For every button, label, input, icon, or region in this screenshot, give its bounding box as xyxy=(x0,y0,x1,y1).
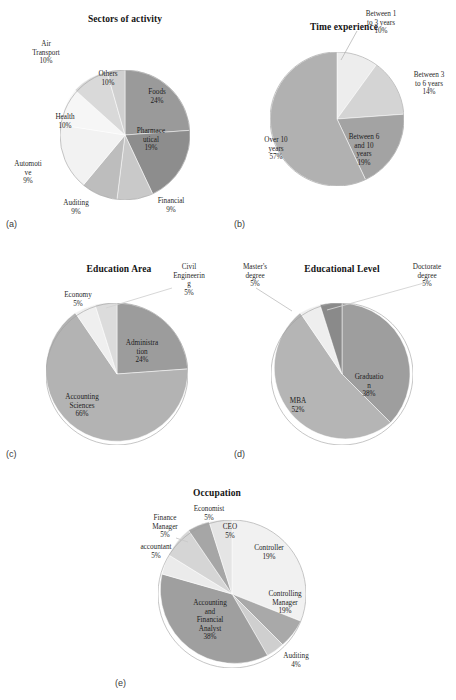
panel-label-e: (e) xyxy=(115,678,126,688)
slice-label-e-ceo: CEO 5% xyxy=(212,523,248,540)
figure-c-education-area: Education Area Administra tion 24% Accou… xyxy=(0,250,228,470)
slice-label-e-controller: Controller 19% xyxy=(242,544,296,561)
slice-label-b-6to10: Between 6 and 10 years 19% xyxy=(338,133,390,167)
pie-chart-c xyxy=(46,303,188,445)
figure-d-educational-level: Educational Level Graduatio n 38% MBA 52… xyxy=(228,250,456,470)
slice-label-b-1to3: Between 1 to 3 years 10% xyxy=(354,10,408,36)
chart-title-a: Sectors of activity xyxy=(55,14,195,24)
slice-label-e-accountant: accountant 5% xyxy=(128,543,184,560)
slice-label-d-mba: MBA 52% xyxy=(276,397,320,414)
slice-label-a-automotive: Automoti ve 9% xyxy=(4,160,52,186)
slice-label-b-3to6: Between 3 to 6 years 14% xyxy=(402,71,456,97)
slice-label-c-accounting-sciences: Accounting Sciences 66% xyxy=(54,393,110,419)
slice-label-a-auditing: Auditing 9% xyxy=(52,199,100,216)
slice-label-b-over10: Over 10 years 57% xyxy=(252,136,300,162)
panel-label-d: (d) xyxy=(234,449,245,459)
slice-label-a-others: Others 10% xyxy=(86,70,130,87)
slice-label-d-graduation: Graduatio n 38% xyxy=(342,373,396,399)
slice-label-d-masters: Master's degree 5% xyxy=(228,263,282,289)
slice-label-c-administration: Administra tion 24% xyxy=(115,339,169,365)
chart-title-d: Educational Level xyxy=(278,264,406,274)
slice-label-c-economy: Economy 5% xyxy=(52,291,104,308)
slice-label-a-pharmaceutical: Pharmace utical 19% xyxy=(126,127,176,153)
slice-label-e-analyst: Accounting and Financial Analyst 38% xyxy=(183,599,237,642)
chart-title-c: Education Area xyxy=(58,264,180,274)
slice-label-a-air-transport: Air Transport 10% xyxy=(20,40,72,66)
panel-label-a: (a) xyxy=(6,219,17,229)
slice-label-d-doctorate: Doctorate degree 5% xyxy=(400,263,454,289)
slice-label-c-civil-engineering: Civil Engineerin g 5% xyxy=(165,263,213,297)
figure-e-occupation: Occupation Controller 19% Controlling Ma… xyxy=(100,482,350,700)
figure-b-time-experience: Time experience Between 1 to 3 years 10%… xyxy=(228,0,456,240)
slice-label-a-health: Health 10% xyxy=(43,113,87,130)
slice-label-a-foods: Foods 24% xyxy=(134,88,180,105)
pie-svg-c xyxy=(46,303,188,445)
slice-label-e-controlling-manager: Controlling Manager 19% xyxy=(258,590,312,616)
slice-label-e-economist: Economist 5% xyxy=(182,505,236,522)
panel-label-b: (b) xyxy=(234,219,245,229)
slice-label-e-auditing: Auditing 4% xyxy=(272,652,320,669)
slice-label-a-financial: Financial 9% xyxy=(146,197,196,214)
figure-a-sectors-of-activity: Sectors of activity Foods 24% Pharmace u… xyxy=(0,0,228,240)
panel-label-c: (c) xyxy=(6,449,17,459)
chart-title-e: Occupation xyxy=(162,488,272,498)
